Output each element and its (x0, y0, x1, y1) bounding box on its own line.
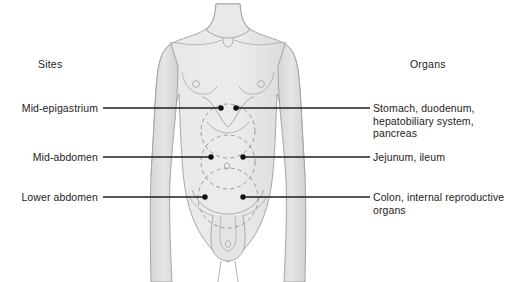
right-arm-shape (278, 44, 306, 282)
organ-label-lower-abdomen: Colon, internal reproductive organs (373, 191, 504, 216)
site-label-mid-epigastrium: Mid-epigastrium (22, 102, 98, 114)
mid-abdomen-dot-left (208, 154, 213, 159)
site-label-lower-abdomen: Lower abdomen (21, 191, 98, 203)
left-arm-shape (150, 44, 178, 282)
sites-column-heading: Sites (38, 58, 62, 70)
anatomy-illustration (0, 0, 507, 282)
torso-silhouette (150, 4, 306, 282)
lower-abdomen-dot-right (240, 194, 245, 199)
organs-column-heading: Organs (410, 58, 446, 70)
site-label-mid-abdomen: Mid-abdomen (33, 151, 98, 163)
abdominal-pain-sites-figure: Sites Organs Mid-epigastrium Mid-abdomen… (0, 0, 507, 282)
mid-epigastrium-dot-right (233, 105, 238, 110)
neck-shape (206, 4, 250, 38)
mid-epigastrium-dot-left (218, 105, 223, 110)
organ-label-mid-abdomen: Jejunum, ileum (373, 151, 445, 164)
genital-region-outline (211, 215, 245, 261)
organ-label-mid-epigastrium: Stomach, duodenum, hepatobiliary system,… (373, 102, 475, 140)
mid-abdomen-dot-right (240, 154, 245, 159)
left-thigh-line (218, 261, 221, 282)
right-thigh-line (235, 261, 238, 282)
lower-abdomen-dot-left (202, 194, 207, 199)
